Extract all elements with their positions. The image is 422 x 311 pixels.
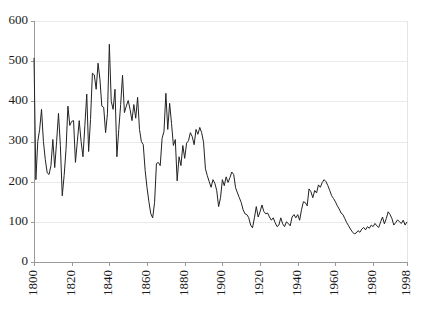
line-chart: 0100200300400500600 18001820184018601880… [0, 0, 422, 311]
y-tick-label-0: 0 [22, 253, 29, 268]
y-tick-label-600: 600 [9, 12, 29, 27]
chart-background [0, 0, 422, 311]
x-tick-label-1900: 1900 [213, 270, 228, 296]
y-tick-label-100: 100 [9, 213, 29, 228]
x-tick-label-1940: 1940 [289, 270, 304, 296]
x-tick-label-1960: 1960 [326, 270, 341, 296]
x-tick-label-1920: 1920 [251, 270, 266, 296]
y-tick-label-200: 200 [9, 173, 29, 188]
x-tick-label-1860: 1860 [138, 270, 153, 296]
x-tick-label-1820: 1820 [63, 270, 78, 296]
x-tick-label-1880: 1880 [176, 270, 191, 296]
y-tick-label-300: 300 [9, 132, 29, 147]
x-tick-label-1980: 1980 [364, 270, 379, 296]
y-tick-label-500: 500 [9, 52, 29, 67]
x-tick-label-1800: 1800 [25, 270, 40, 296]
x-tick-label-1998: 1998 [398, 270, 413, 296]
x-tick-label-1840: 1840 [100, 270, 115, 296]
y-tick-label-400: 400 [9, 92, 29, 107]
chart-container: 0100200300400500600 18001820184018601880… [0, 0, 422, 311]
